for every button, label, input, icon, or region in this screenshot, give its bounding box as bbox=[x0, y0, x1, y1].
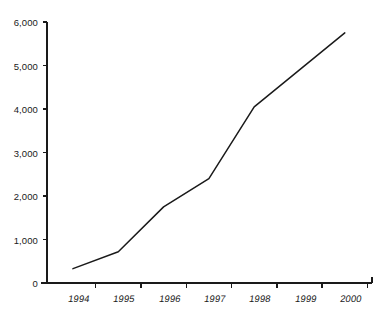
y-axis-tick-label: 1,000 bbox=[0, 234, 38, 245]
y-axis-tick-label: 5,000 bbox=[0, 60, 38, 71]
y-axis-tick-label: 2,000 bbox=[0, 191, 38, 202]
chart-canvas bbox=[0, 0, 389, 322]
series-line bbox=[73, 33, 345, 269]
x-axis bbox=[47, 277, 372, 288]
x-axis-tick-label: 1998 bbox=[249, 293, 272, 304]
x-axis-tick-label: 1995 bbox=[113, 293, 136, 304]
y-axis-tick-label: 4,000 bbox=[0, 104, 38, 115]
x-axis-tick-label: 1997 bbox=[203, 293, 226, 304]
y-axis-tick-label: 6,000 bbox=[0, 17, 38, 28]
x-axis-tick-label: 2000 bbox=[339, 293, 362, 304]
y-axis-tick-label: 3,000 bbox=[0, 147, 38, 158]
data-series-line bbox=[73, 33, 345, 269]
x-axis-tick-label: 1999 bbox=[294, 293, 317, 304]
x-axis-tick-label: 1996 bbox=[158, 293, 181, 304]
y-axis-tick-label: 0 bbox=[0, 278, 38, 289]
x-axis-tick-label: 1994 bbox=[67, 293, 90, 304]
line-chart: 01,0002,0003,0004,0005,0006,000 19941995… bbox=[0, 0, 389, 322]
y-axis bbox=[41, 22, 47, 283]
